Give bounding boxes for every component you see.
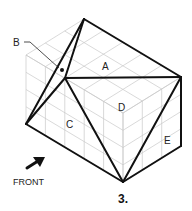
edge-inner-bottom (65, 78, 123, 182)
edge-bottom-righttop (123, 77, 181, 182)
face-label-d: D (118, 102, 125, 113)
edge-inner-right (65, 77, 181, 78)
face-label-a: A (102, 61, 109, 72)
isometric-block-diagram: B A C D E FRONT 3. (0, 0, 192, 211)
grid-line (123, 94, 181, 130)
grid-line (123, 129, 181, 165)
face-label-c: C (66, 119, 73, 130)
front-label: FRONT (13, 177, 44, 187)
edge-apex-right (84, 19, 181, 77)
isometric-grid (26, 19, 181, 182)
edge-bottom-rightbottom (123, 146, 181, 182)
front-arrow-icon (27, 157, 45, 168)
face-label-e: E (164, 135, 171, 146)
grid-line (65, 31, 162, 89)
figure-number: 3. (118, 192, 128, 206)
edge-left-bottom (26, 124, 123, 182)
label-b-dot (60, 68, 64, 72)
face-label-b: B (13, 37, 20, 48)
